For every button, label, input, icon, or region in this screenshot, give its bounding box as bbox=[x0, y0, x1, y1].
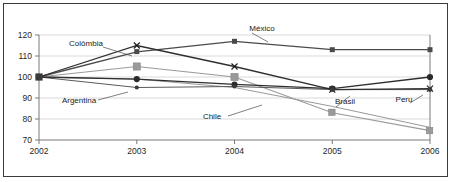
annotation-brasil: Brasil bbox=[335, 97, 355, 106]
x-tick-2002: 2002 bbox=[30, 146, 49, 156]
x-tick-2004: 2004 bbox=[225, 146, 244, 156]
annotation-argentina: Argentina bbox=[62, 96, 97, 105]
annotation-chile: Chile bbox=[203, 112, 222, 121]
annotation-colombia: Colômbia bbox=[69, 39, 103, 48]
annotation-leaders bbox=[98, 33, 423, 116]
leader-argentina bbox=[98, 92, 128, 100]
x-tick-2005: 2005 bbox=[323, 146, 342, 156]
marker-origin bbox=[35, 73, 42, 80]
y-tick-100: 100 bbox=[18, 72, 32, 82]
leader-chile bbox=[228, 105, 262, 116]
markers-mexico bbox=[134, 39, 432, 54]
y-tick-marks bbox=[35, 35, 39, 140]
y-tick-70: 70 bbox=[23, 135, 33, 145]
y-tick-90: 90 bbox=[23, 93, 33, 103]
annotation-mexico: México bbox=[249, 24, 275, 33]
x-tick-2003: 2003 bbox=[127, 146, 146, 156]
y-tick-110: 110 bbox=[18, 51, 32, 61]
y-tick-120: 120 bbox=[18, 30, 32, 40]
y-tick-80: 80 bbox=[23, 114, 33, 124]
annotation-peru: Peru bbox=[396, 95, 413, 104]
x-tick-2006: 2006 bbox=[421, 146, 440, 156]
x-tick-marks bbox=[39, 140, 430, 144]
leader-mexico bbox=[252, 33, 268, 42]
line-chart: 120 110 100 90 80 70 2002 2003 2004 2005… bbox=[0, 0, 453, 182]
